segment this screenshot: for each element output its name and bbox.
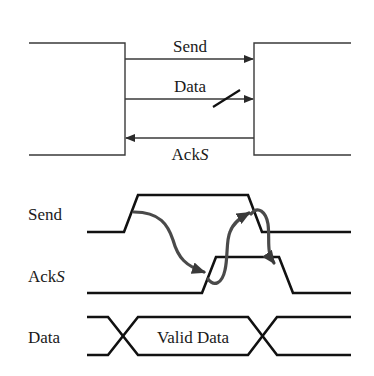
sender-block [29, 43, 125, 155]
acks-waveform [87, 257, 351, 293]
causal-arrows [134, 210, 274, 283]
send-rise-to-ack-rise-arrow [134, 212, 204, 272]
data-bus-arrow: Data [125, 77, 253, 107]
valid-data-label: Valid Data [157, 328, 230, 347]
receiver-block [254, 43, 351, 155]
timing-send-label: Send [28, 205, 63, 224]
timing-acks-label: AckS [28, 267, 65, 286]
send-signal-arrow: Send [125, 37, 253, 59]
acks-signal-arrow: AckS [126, 138, 254, 164]
ack-rise-to-send-fall-arrow [208, 213, 249, 283]
acks-label: AckS [172, 145, 209, 164]
data-bus-waveform: Valid Data [87, 317, 351, 355]
send-waveform [87, 195, 351, 232]
send-label: Send [173, 37, 208, 56]
send-fall-to-ack-fall-arrow [251, 210, 274, 263]
timing-data-label: Data [28, 328, 61, 347]
handshake-diagram: Send Data AckS Send AckS Data Valid Data [0, 0, 374, 376]
data-label: Data [174, 77, 207, 96]
